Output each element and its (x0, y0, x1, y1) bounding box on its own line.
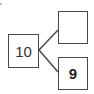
connector-top (39, 30, 58, 50)
whole-box: 10 (8, 34, 39, 68)
whole-value: 10 (15, 43, 32, 60)
connector-bottom (39, 50, 58, 72)
part-bottom-value: 9 (69, 65, 77, 82)
part-box-top-empty[interactable] (58, 11, 88, 44)
part-box-bottom: 9 (58, 57, 88, 90)
